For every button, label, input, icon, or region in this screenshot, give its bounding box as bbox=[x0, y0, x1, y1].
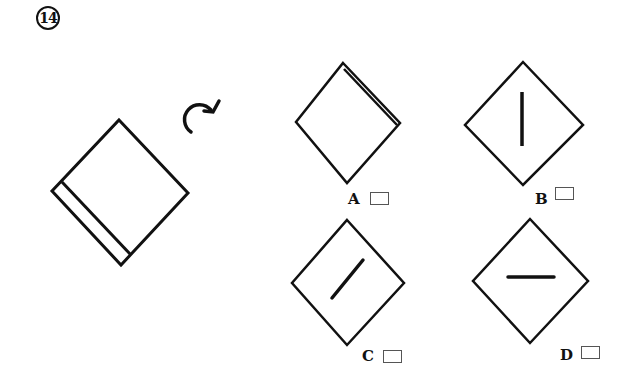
clockwise-rotation-arrow-icon bbox=[185, 101, 219, 132]
figure-canvas bbox=[0, 0, 633, 370]
main-shape bbox=[52, 120, 188, 265]
option-a-label: A bbox=[348, 190, 360, 208]
option-d-label: D bbox=[560, 346, 573, 364]
option-b-checkbox[interactable] bbox=[555, 187, 574, 200]
option-c-label: C bbox=[362, 347, 374, 365]
option-a-checkbox[interactable] bbox=[370, 192, 389, 205]
option-d-checkbox[interactable] bbox=[581, 346, 600, 359]
option-b-figure bbox=[465, 62, 583, 185]
option-b-label: B bbox=[535, 190, 548, 208]
option-d-figure bbox=[473, 219, 588, 343]
option-c-figure bbox=[292, 220, 404, 345]
option-a-figure bbox=[296, 63, 400, 183]
option-c-checkbox[interactable] bbox=[383, 350, 402, 363]
